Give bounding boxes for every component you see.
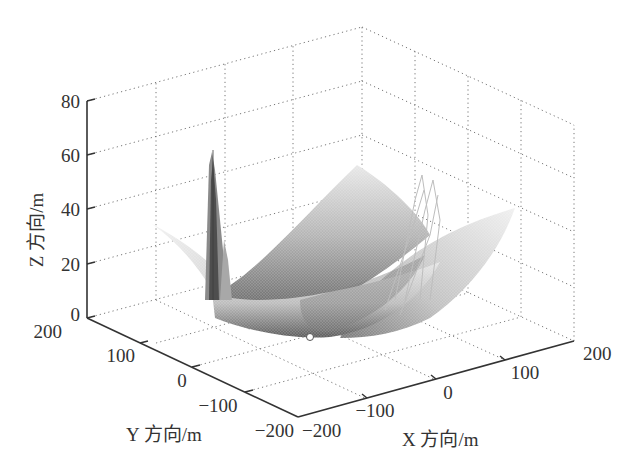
- y-tick-minus200: −200: [255, 420, 294, 441]
- z-tick-40: 40: [61, 199, 80, 220]
- x-tick-100: 100: [511, 362, 540, 383]
- x-tick-200: 200: [583, 343, 612, 364]
- y-axis-label: Y 方向/m: [126, 424, 202, 445]
- x-tick-minus100: −100: [355, 400, 394, 421]
- surface-plot: 80 60 40 20 0 200 100 0 −100 −200 −200 −…: [0, 0, 634, 474]
- y-tick-0: 0: [177, 370, 187, 391]
- y-tick-100: 100: [107, 345, 136, 366]
- y-tick-200: 200: [34, 321, 63, 342]
- y-tick-minus100: −100: [198, 395, 237, 416]
- x-tick-labels: −200 −100 0 100 200: [302, 343, 612, 441]
- minimum-marker: [307, 334, 314, 341]
- x-tick-minus200: −200: [302, 420, 341, 441]
- z-tick-80: 80: [61, 91, 80, 112]
- x-axis-label: X 方向/m: [402, 429, 479, 450]
- z-tick-0: 0: [71, 304, 81, 325]
- z-tick-60: 60: [61, 145, 80, 166]
- terrain-surface: [140, 150, 530, 350]
- z-tick-labels: 80 60 40 20 0: [61, 91, 80, 325]
- z-axis-label: Z 方向/m: [26, 193, 47, 268]
- z-tick-20: 20: [61, 254, 80, 275]
- x-tick-0: 0: [443, 382, 453, 403]
